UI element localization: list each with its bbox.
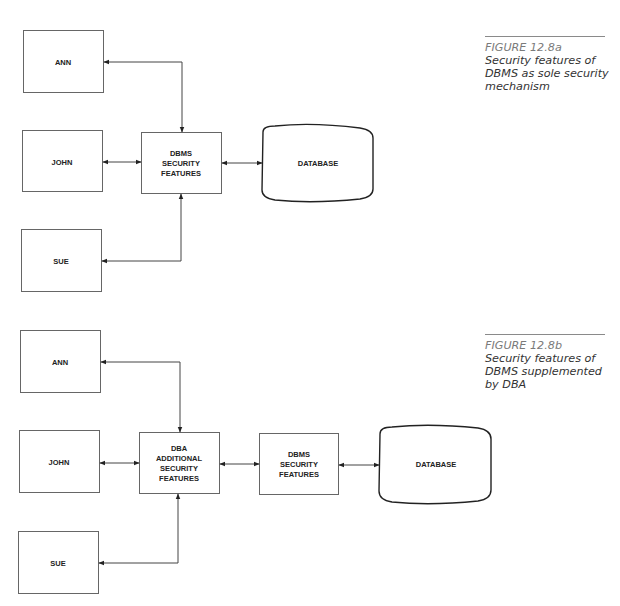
caption-rule-a — [485, 36, 605, 37]
node-dbms-security-b-line2: SECURITY — [280, 460, 318, 469]
node-dba-security-b-line3: SECURITY — [160, 464, 198, 473]
node-dba-security-b-line2: ADDITIONAL — [156, 454, 203, 463]
node-ann-b: ANN — [21, 331, 101, 393]
node-ann-b-label: ANN — [52, 358, 68, 367]
node-database-a-label: DATABASE — [298, 159, 339, 168]
node-dbms-security-a-line1: DBMS — [170, 149, 192, 158]
node-database-b: DATABASE — [379, 425, 491, 504]
caption-line-a-3: mechanism — [485, 80, 620, 93]
node-dbms-security-b-line1: DBMS — [288, 450, 310, 459]
node-sue-a-label: SUE — [53, 257, 68, 266]
node-sue-b-label: SUE — [50, 559, 65, 568]
node-john-b: JOHN — [20, 431, 100, 493]
node-dba-security-b-line1: DBA — [171, 444, 188, 453]
caption-line-a-1: Security features of — [485, 54, 620, 67]
node-database-a: DATABASE — [262, 124, 373, 201]
node-dbms-security-b: DBMS SECURITY FEATURES — [260, 434, 339, 495]
caption-line-b-1: Security features of — [485, 352, 620, 365]
caption-rule-b — [485, 334, 605, 335]
node-dba-security-b-line4: FEATURES — [159, 474, 199, 483]
figure-b: ANN JOHN SUE DBA ADDITIONAL SECURITY FEA… — [19, 331, 492, 594]
node-sue-a: SUE — [22, 230, 102, 292]
node-ann-a: ANN — [24, 31, 104, 93]
node-dbms-security-a-line3: FEATURES — [161, 169, 201, 178]
node-dbms-security-a: DBMS SECURITY FEATURES — [142, 133, 222, 194]
node-dba-security-b: DBA ADDITIONAL SECURITY FEATURES — [140, 433, 220, 494]
edge-ann-dba-b — [101, 362, 180, 432]
edge-sue-dbms-a — [102, 194, 181, 261]
node-ann-a-label: ANN — [55, 58, 71, 67]
edge-sue-dba-b — [99, 494, 178, 563]
node-sue-b: SUE — [19, 532, 99, 594]
node-database-b-label: DATABASE — [416, 460, 457, 469]
caption-label-a: FIGURE 12.8a — [485, 41, 620, 54]
caption-figure-b: FIGURE 12.8b Security features of DBMS s… — [485, 334, 620, 391]
node-dbms-security-b-line3: FEATURES — [279, 470, 319, 479]
node-john-b-label: JOHN — [49, 458, 70, 467]
caption-label-b: FIGURE 12.8b — [485, 339, 620, 352]
node-john-a: JOHN — [23, 131, 103, 192]
caption-line-a-2: DBMS as sole security — [485, 67, 620, 80]
caption-line-b-2: DBMS supplemented — [485, 365, 620, 378]
node-john-a-label: JOHN — [52, 158, 73, 167]
edge-ann-dbms-a — [104, 62, 182, 132]
caption-line-b-3: by DBA — [485, 378, 620, 391]
caption-figure-a: FIGURE 12.8a Security features of DBMS a… — [485, 36, 620, 93]
figure-a: ANN JOHN SUE DBMS SECURITY FEATURES — [22, 31, 374, 292]
node-dbms-security-a-line2: SECURITY — [162, 159, 200, 168]
